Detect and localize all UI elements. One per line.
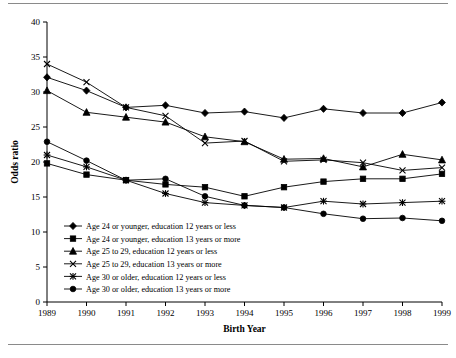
data-point-square [321,179,326,184]
y-tick-label: 0 [36,297,41,307]
series-line [47,155,442,208]
data-point-square [84,172,89,177]
data-point-circle [242,203,248,209]
y-axis-title: Odds ratio [10,140,20,184]
y-tick-label: 30 [31,87,41,97]
series-group [44,61,446,224]
data-point-circle [84,158,90,164]
data-point-circle [44,139,50,145]
data-point-square [400,176,405,181]
series-2 [44,87,446,170]
data-point-circle [400,215,406,221]
data-point-circle [321,211,327,217]
legend-group: Age 24 or younger, education 12 years or… [64,222,241,294]
data-point-star [399,199,406,206]
data-point-diamond [241,108,248,115]
data-point-diamond [83,87,90,94]
x-tick-label: 1993 [196,308,215,318]
top-rule [8,3,448,4]
data-point-circle [281,205,287,211]
x-tick-label: 1998 [394,308,413,318]
data-point-star [202,199,209,206]
data-point-star [439,198,446,205]
legend-label: Age 30 or older, education 12 years or l… [86,273,226,282]
series-line [47,163,442,196]
data-point-square [70,236,75,241]
data-point-triangle [83,109,90,116]
legend-item-4: Age 30 or older, education 12 years or l… [64,273,226,282]
x-tick-label: 1999 [433,308,452,318]
data-point-diamond [162,102,169,109]
data-point-diamond [320,105,327,112]
legend-item-0: Age 24 or younger, education 12 years or… [64,222,236,231]
x-tick-label: 1996 [315,308,334,318]
data-point-diamond [439,99,446,106]
x-tick-label: 1989 [38,308,57,318]
data-point-circle [70,286,76,292]
legend-label: Age 25 to 29, education 12 years or less [86,247,217,256]
data-point-star [44,152,51,159]
series-5 [44,139,445,224]
legend-label: Age 24 or younger, education 12 years or… [86,222,236,231]
data-point-square [360,176,365,181]
data-point-square [44,161,49,166]
series-1 [44,161,444,199]
data-point-square [439,171,444,176]
data-point-triangle [399,151,406,158]
data-point-diamond [44,74,51,81]
data-point-circle [123,177,129,183]
y-tick-label: 35 [31,52,41,62]
series-line [47,91,442,167]
y-tick-label: 15 [31,192,41,202]
legend-item-5: Age 30 or older, education 13 years or m… [64,285,231,294]
legend-item-3: Age 25 to 29, education 13 years or more [64,260,222,269]
figure-container: 0510152025303540198919901991199219931994… [0,0,456,358]
data-point-star [320,198,327,205]
data-point-diamond [281,114,288,121]
x-tick-label: 1991 [117,308,135,318]
legend-label: Age 25 to 29, education 13 years or more [86,260,222,269]
series-line [47,142,442,221]
x-tick-label: 1997 [354,308,373,318]
data-point-diamond [399,109,406,116]
x-tick-label: 1990 [78,308,97,318]
data-point-star [70,273,77,280]
data-point-circle [163,176,169,182]
line-chart: 0510152025303540198919901991199219931994… [0,0,456,358]
data-point-square [281,185,286,190]
data-point-circle [202,194,208,200]
data-point-circle [360,216,366,222]
data-point-diamond [360,109,367,116]
data-point-triangle [202,133,209,140]
series-line [47,64,442,170]
data-point-square [242,194,247,199]
legend-label: Age 24 or younger, education 13 years or… [86,235,241,244]
y-tick-label: 5 [36,262,41,272]
legend-item-1: Age 24 or younger, education 13 years or… [64,235,241,244]
y-tick-label: 10 [31,227,41,237]
x-tick-label: 1992 [157,308,175,318]
x-tick-label: 1995 [275,308,294,318]
data-point-star [83,164,90,171]
bottom-rule [8,344,448,345]
y-tick-label: 25 [31,122,41,132]
data-point-square [163,182,168,187]
legend-item-2: Age 25 to 29, education 12 years or less [64,247,217,256]
data-point-diamond [70,222,77,229]
data-point-x [84,79,90,85]
data-point-circle [439,218,445,224]
data-point-diamond [202,109,209,116]
x-tick-label: 1994 [236,308,255,318]
y-tick-label: 20 [31,157,41,167]
data-point-square [202,185,207,190]
data-point-star [360,201,367,208]
data-point-triangle [44,87,51,94]
series-3 [44,61,445,173]
data-point-star [162,190,169,197]
series-4 [44,152,446,211]
x-axis-title: Birth Year [223,324,266,334]
y-tick-label: 40 [31,17,41,27]
legend-label: Age 30 or older, education 13 years or m… [86,285,231,294]
